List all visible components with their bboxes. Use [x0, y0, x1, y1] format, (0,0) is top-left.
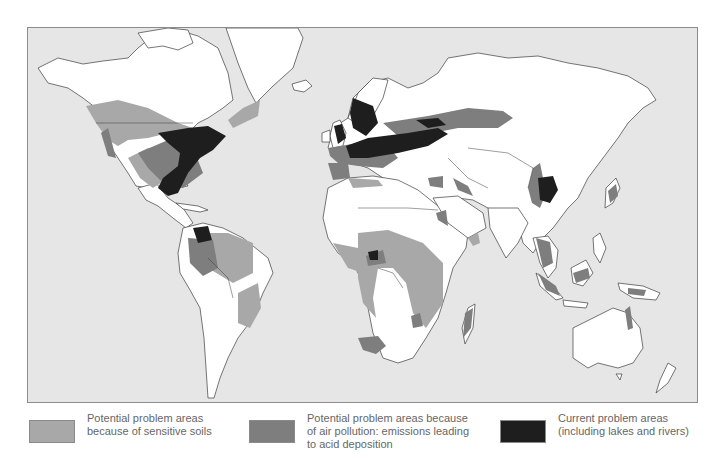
india: [488, 208, 528, 258]
map-canvas: [28, 28, 698, 403]
legend-swatch-current: [500, 420, 546, 443]
iceland: [292, 80, 312, 92]
legend-label-current: Current problem areas (including lakes a…: [558, 412, 689, 438]
map-legend: Potential problem areas because of sensi…: [0, 412, 721, 459]
ireland: [322, 130, 330, 142]
legend-item-air-pollution: Potential problem areas because of air p…: [249, 412, 469, 451]
java: [563, 300, 588, 308]
legend-swatch-air-pollution: [249, 420, 295, 443]
legend-item-sensitive-soils: Potential problem areas because of sensi…: [29, 412, 212, 443]
legend-label-air-pollution: Potential problem areas because of air p…: [307, 412, 469, 451]
legend-swatch-sensitive-soils: [29, 420, 75, 443]
world-map: [27, 27, 698, 403]
philippines: [593, 233, 606, 263]
legend-item-current: Current problem areas (including lakes a…: [500, 412, 689, 443]
new-zealand: [656, 363, 676, 393]
greenland: [226, 28, 303, 103]
legend-label-sensitive-soils: Potential problem areas because of sensi…: [87, 412, 212, 438]
tasmania: [616, 374, 622, 380]
australia: [573, 308, 643, 368]
